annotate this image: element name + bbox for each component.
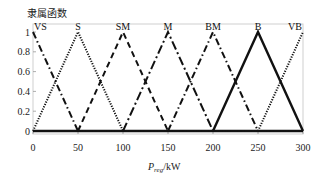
series-line-vs [33, 32, 303, 131]
y-tick-label: 0.6 [18, 66, 31, 77]
series-label-m: M [164, 21, 173, 32]
x-tick-label: 50 [73, 142, 83, 153]
series-label-vb: VB [288, 21, 302, 32]
x-tick-label: 300 [296, 142, 311, 153]
y-tick-label: 0.2 [18, 106, 31, 117]
series-label-bm: BM [205, 21, 221, 32]
x-axis-label: Preg/kW [147, 161, 181, 174]
series-labels: VSSSMMBMBVB [34, 21, 302, 32]
series-line-s [33, 32, 123, 131]
y-tick-label: 1 [25, 27, 30, 38]
y-tick-label: 0.4 [18, 86, 31, 97]
x-tick-label: 0 [31, 142, 36, 153]
x-tick-label: 250 [251, 142, 266, 153]
series-label-vs: VS [34, 21, 47, 32]
series-label-sm: SM [116, 21, 131, 32]
series-line-b [213, 32, 303, 131]
membership-function-chart: 隶属函数 00.20.40.60.81 050100150200250300 V… [0, 0, 320, 174]
series-line-sm [78, 32, 168, 131]
x-axis-label-main: P [147, 161, 154, 172]
x-tick-label: 100 [116, 142, 131, 153]
series-line-m [123, 32, 213, 131]
x-tick-label: 150 [161, 142, 176, 153]
series-line-bm [168, 32, 258, 131]
x-axis-label-unit: /kW [163, 161, 181, 172]
chart-title: 隶属函数 [27, 7, 67, 19]
series-label-b: B [255, 21, 262, 32]
x-tick-label: 200 [206, 142, 221, 153]
series-label-s: S [75, 21, 81, 32]
series-lines [33, 32, 303, 131]
y-tick-label: 0.8 [18, 46, 31, 57]
y-tick-label: 0 [25, 126, 30, 137]
